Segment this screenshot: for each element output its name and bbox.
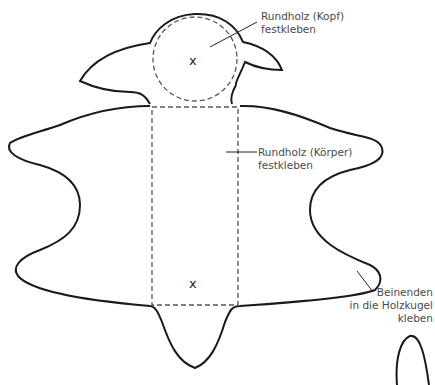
legs-label-line3: kleben xyxy=(350,312,434,325)
body-label-line1: Rundholz (Körper) xyxy=(258,146,352,159)
head-label-line1: Rundholz (Kopf) xyxy=(261,10,344,23)
head-label-line2: festkleben xyxy=(261,23,344,36)
template-canvas: x x Rundholz (Kopf) festkleben Rundholz … xyxy=(0,0,435,385)
legs-label-line2: in die Holzkugel xyxy=(350,299,434,312)
template-drawing: x x xyxy=(0,0,435,385)
head-center-marker: x xyxy=(189,53,197,68)
body-label-line2: festkleben xyxy=(258,159,352,172)
head-ears-outline xyxy=(80,14,282,104)
legs-label-line1: Beinenden xyxy=(350,286,434,299)
partial-leg-outline xyxy=(397,336,429,385)
legs-label: Beinenden in die Holzkugel kleben xyxy=(350,286,434,325)
body-label: Rundholz (Körper) festkleben xyxy=(258,146,352,172)
body-bottom-marker: x xyxy=(189,276,197,291)
head-label: Rundholz (Kopf) festkleben xyxy=(261,10,344,36)
